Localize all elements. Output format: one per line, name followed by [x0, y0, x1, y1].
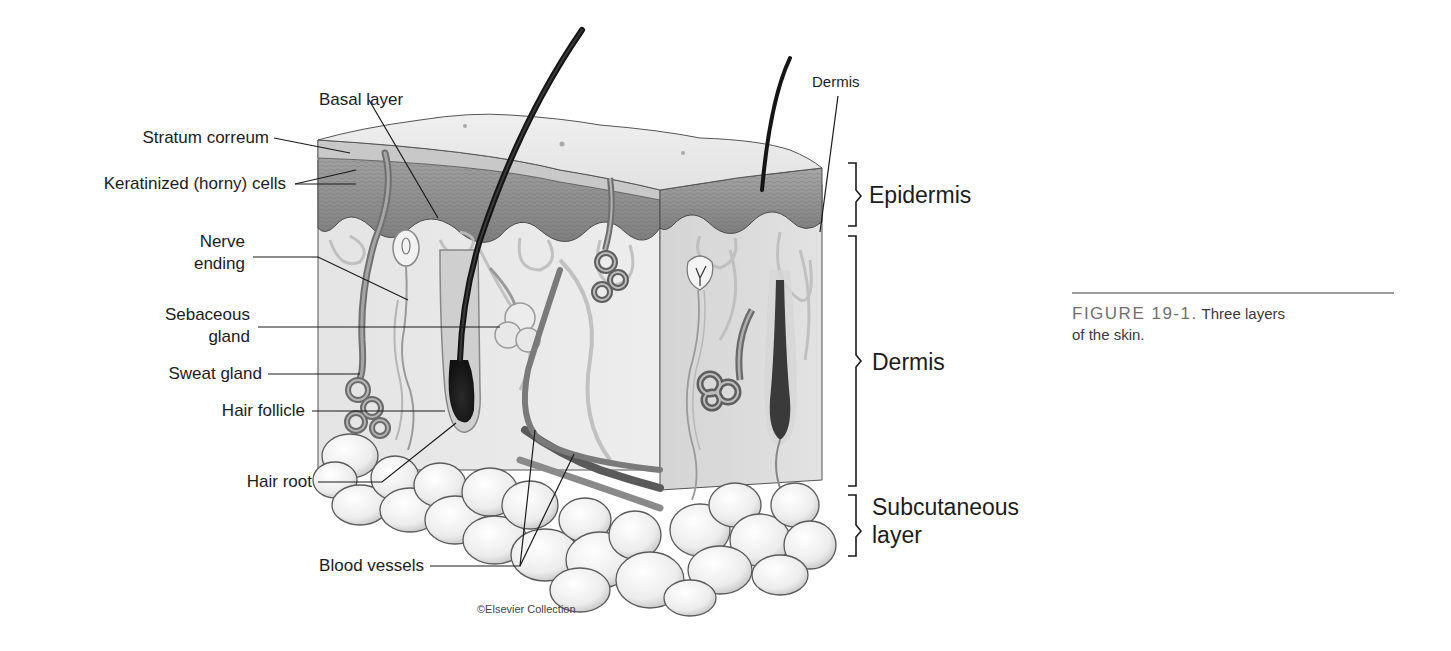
label-sweat-gland: Sweat gland	[140, 364, 262, 384]
label-keratinized-cells: Keratinized (horny) cells	[56, 174, 286, 194]
layer-label-subcutaneous-line1: Subcutaneous	[872, 494, 1019, 521]
label-hair-follicle: Hair follicle	[190, 401, 305, 421]
layer-braces	[848, 163, 861, 556]
image-credit: ©Elsevier Collection	[477, 603, 576, 615]
caption-text-line2: of the skin.	[1072, 326, 1145, 343]
layer-label-subcutaneous-line2: layer	[872, 522, 922, 549]
label-basal-layer: Basal layer	[319, 90, 403, 110]
label-blood-vessels: Blood vessels	[270, 556, 424, 576]
label-dermis-pointer: Dermis	[812, 72, 860, 92]
figure-number: FIGURE 19-1.	[1072, 304, 1198, 323]
label-hair-root: Hair root	[200, 472, 312, 492]
caption-text-line1: Three layers	[1202, 305, 1285, 322]
label-sebaceous-gland-line1: Sebaceous	[140, 305, 250, 325]
caption-divider	[1072, 292, 1394, 294]
label-stratum-correum: Stratum correum	[106, 128, 269, 148]
layer-label-dermis: Dermis	[872, 349, 945, 376]
layer-label-epidermis: Epidermis	[869, 182, 971, 209]
label-sebaceous-gland-line2: gland	[140, 327, 250, 347]
label-nerve-ending-line1: Nerve	[180, 232, 245, 252]
figure-caption: FIGURE 19-1. Three layers of the skin.	[1072, 303, 1402, 345]
label-nerve-ending-line2: ending	[180, 254, 245, 274]
